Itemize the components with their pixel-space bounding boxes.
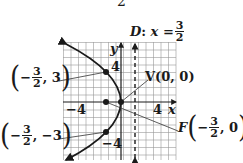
point-lower	[103, 129, 109, 135]
vertex-point	[118, 99, 124, 105]
directrix-fraction: 32	[175, 20, 185, 43]
tick-pos-x: 4	[153, 103, 162, 116]
tick-neg-x: −4	[66, 103, 86, 116]
point-upper	[103, 69, 109, 75]
y-axis-label: y	[110, 42, 118, 55]
focus-point	[103, 99, 109, 105]
parabola-figure: 2 y x 4 −4 −4 4 D: x = 32 V(0, 0) F(− 32…	[0, 0, 243, 163]
tick-pos-y: 4	[111, 60, 120, 73]
focus-label: F(− 32, 0)	[178, 114, 243, 140]
x-axis-label: x	[168, 103, 176, 116]
upper-point-label: (− 32, 3)	[10, 64, 71, 90]
tick-neg-y: −4	[102, 137, 122, 150]
directrix-label: D: x = 32	[130, 20, 185, 43]
vertex-label: V(0, 0)	[145, 70, 195, 83]
lower-point-label: (− 32, −3)	[0, 122, 72, 148]
partial-top-text: 2	[117, 0, 126, 8]
